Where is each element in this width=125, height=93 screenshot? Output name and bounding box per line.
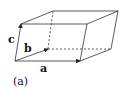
label-a: a <box>40 62 47 75</box>
edge <box>80 49 111 61</box>
hidden-edge <box>48 11 53 49</box>
edge <box>87 11 118 24</box>
edge <box>111 11 118 49</box>
label-b: b <box>24 42 32 55</box>
label-c: c <box>8 33 15 46</box>
figure-caption: (a) <box>13 75 28 88</box>
edge <box>21 11 53 24</box>
parallelepiped-diagram: c b a (a) <box>0 0 125 93</box>
vector-c <box>15 24 21 61</box>
edge <box>80 24 87 61</box>
